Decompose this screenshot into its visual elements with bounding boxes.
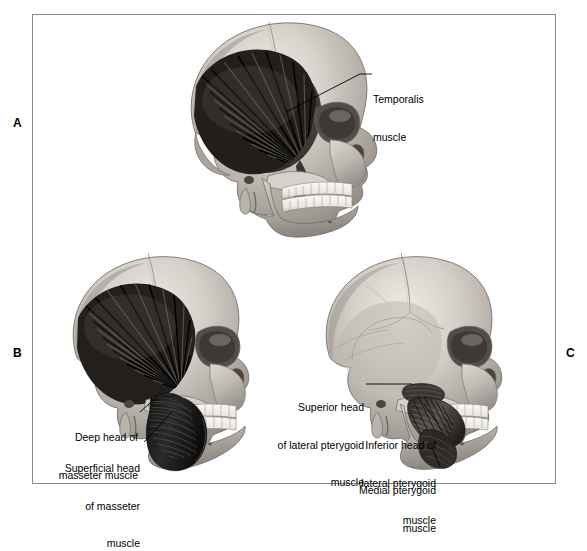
label-line: of lateral pterygoid bbox=[276, 439, 364, 452]
label-line: muscle bbox=[30, 537, 140, 550]
label-superficial-head-masseter-muscle: Superficial head of masseter muscle bbox=[30, 437, 140, 551]
label-temporalis-muscle: Temporalis muscle bbox=[373, 68, 424, 168]
label-line: Inferior head of bbox=[352, 439, 436, 452]
label-medial-pterygoid-muscle: Medial pterygoid muscle bbox=[348, 459, 436, 551]
label-line: Medial pterygoid bbox=[348, 484, 436, 497]
panel-letter-a: A bbox=[13, 116, 22, 130]
label-line: of masseter bbox=[30, 500, 140, 513]
label-line: muscle bbox=[348, 522, 436, 535]
panel-letter-c: C bbox=[566, 346, 575, 360]
label-line: muscle bbox=[373, 131, 424, 144]
label-line: Superior head bbox=[276, 401, 364, 414]
label-line: Superficial head bbox=[30, 462, 140, 475]
panel-letter-b: B bbox=[13, 346, 22, 360]
label-line: Temporalis bbox=[373, 93, 424, 106]
